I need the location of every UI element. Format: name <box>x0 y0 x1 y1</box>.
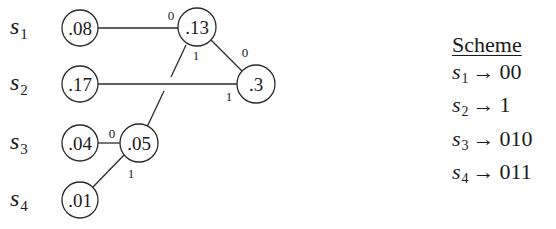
code-scheme: Scheme s1→00 s2→1 s3→010 s4→011 <box>452 32 533 193</box>
symbol-base: s <box>452 59 461 84</box>
edge-n05-to-n13-upper <box>171 45 186 77</box>
scheme-row-s2: s2→1 <box>452 92 533 126</box>
scheme-title: Scheme <box>452 32 533 59</box>
symbol-base: s <box>452 126 461 151</box>
node-n3-root: .3 <box>237 65 275 103</box>
node-s2-leaf: .17 <box>62 66 98 102</box>
node-value: .13 <box>185 17 209 38</box>
symbol-subscript: 2 <box>462 104 469 119</box>
edge-n13-to-n3 <box>211 40 242 71</box>
node-s4-leaf: .01 <box>62 182 98 218</box>
node-value: .05 <box>127 133 151 154</box>
arrow-icon: → <box>473 92 495 117</box>
scheme-row-s3: s3→010 <box>452 126 533 160</box>
edge-label: 0 <box>242 45 249 60</box>
arrow-icon: → <box>473 159 495 184</box>
edge-label: 1 <box>128 166 135 181</box>
node-value: .17 <box>68 74 92 95</box>
node-n13: .13 <box>178 8 216 46</box>
node-value: .01 <box>68 190 92 211</box>
codeword: 010 <box>500 126 533 151</box>
edge-label: 0 <box>168 8 175 23</box>
codeword: 00 <box>500 59 522 84</box>
node-value: .3 <box>249 74 263 95</box>
edge-label: 1 <box>226 89 233 104</box>
symbol-base: s <box>452 92 461 117</box>
arrow-icon: → <box>473 59 495 84</box>
codeword: 1 <box>500 92 511 117</box>
edge-s4-to-n05 <box>93 155 124 187</box>
scheme-row-s4: s4→011 <box>452 159 533 193</box>
node-n05: .05 <box>120 124 158 162</box>
symbol-subscript: 3 <box>462 138 469 153</box>
node-s1-leaf: .08 <box>62 10 98 46</box>
scheme-row-s1: s1→00 <box>452 59 533 93</box>
node-s3-leaf: .04 <box>62 125 98 161</box>
codeword: 011 <box>500 159 532 184</box>
huffman-tree: .08 .13 .17 .3 .04 .05 .01 0 1 0 1 0 1 <box>0 0 300 229</box>
arrow-icon: → <box>473 126 495 151</box>
symbol-subscript: 1 <box>462 71 469 86</box>
node-value: .08 <box>68 18 92 39</box>
edge-n05-to-n13-lower <box>147 91 164 127</box>
symbol-subscript: 4 <box>462 171 469 186</box>
node-value: .04 <box>68 133 92 154</box>
edge-label: 0 <box>109 126 116 141</box>
symbol-base: s <box>452 159 461 184</box>
edge-label: 1 <box>193 48 200 63</box>
